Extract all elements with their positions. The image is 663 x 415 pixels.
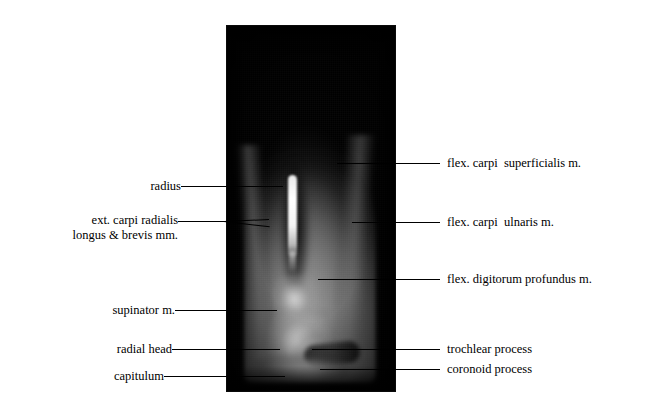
- leader-radial-head: [172, 349, 226, 350]
- label-ext-carpi-radialis: ext. carpi radialis: [40, 213, 178, 228]
- leader-supinator: [175, 310, 226, 311]
- leader-flex-carpi-ulnaris-inside: [352, 222, 396, 223]
- label-flex-digitorum-profundus: flex. digitorum profundus m.: [447, 272, 592, 287]
- label-coronoid-process: coronoid process: [447, 362, 532, 377]
- leader-flex-carpi-superficialis: [396, 163, 440, 164]
- leader-flex-digitorum-profundus-inside: [318, 279, 396, 280]
- leader-supinator-inside: [226, 310, 277, 311]
- leader-flex-digitorum-profundus: [396, 279, 440, 280]
- label-capitulum: capitulum: [60, 369, 164, 384]
- leader-radius: [181, 186, 226, 187]
- leader-flex-carpi-superficialis-inside: [337, 163, 396, 164]
- leader-capitulum-inside: [226, 376, 285, 377]
- label-radial-head: radial head: [60, 342, 172, 357]
- leader-radius-inside: [226, 186, 283, 187]
- leader-trochlear-process-inside: [312, 349, 396, 350]
- leader-capitulum: [164, 376, 226, 377]
- image-frame: [226, 25, 396, 392]
- label-trochlear-process: trochlear process: [447, 342, 532, 357]
- annotated-mri-figure: radius ext. carpi radialis longus & brev…: [0, 0, 663, 415]
- leader-trochlear-process: [396, 349, 440, 350]
- label-radius: radius: [70, 179, 181, 194]
- leader-coronoid-process: [396, 369, 440, 370]
- leader-flex-carpi-ulnaris: [396, 222, 440, 223]
- leader-ext-carpi-radialis: [178, 221, 226, 222]
- label-flex-carpi-ulnaris: flex. carpi ulnaris m.: [447, 215, 554, 230]
- label-supinator: supinator m.: [60, 303, 175, 318]
- mri-image-panel: [226, 25, 396, 392]
- leader-coronoid-process-inside: [320, 369, 396, 370]
- label-ext-carpi-radialis-line2: longus & brevis mm.: [40, 228, 178, 243]
- label-flex-carpi-superficialis: flex. carpi superficialis m.: [447, 156, 581, 171]
- leader-radial-head-inside: [226, 349, 280, 350]
